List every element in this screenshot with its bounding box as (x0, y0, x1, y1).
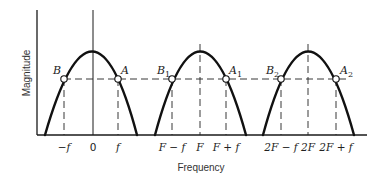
tick-2F: 2F (300, 141, 316, 153)
x-tick-labels: −f 0 f F − f F F + f 2F − f 2F 2F + f (58, 141, 355, 153)
y-axis-label: Magnitude (21, 49, 32, 96)
point-A2 (333, 76, 339, 82)
label-B: B (52, 64, 61, 77)
spectrum-diagram: B A B1 A1 B2 A2 −f 0 f F − f F F + f 2F … (0, 0, 386, 183)
label-B2: B2 (265, 64, 279, 79)
tick-2F-minus-f: 2F − f (263, 141, 299, 153)
tick-F-plus-f: F + f (212, 141, 242, 153)
label-A2: A2 (339, 64, 353, 79)
point-B (61, 76, 67, 82)
label-A: A (120, 64, 129, 77)
label-A1: A1 (228, 64, 242, 79)
tick-2F-plus-f: 2F + f (318, 141, 354, 153)
label-B1: B1 (156, 64, 170, 79)
tick-f: f (115, 141, 122, 153)
tick-F: F (195, 141, 204, 153)
tick-neg-f: −f (58, 141, 73, 153)
tick-zero: 0 (90, 141, 97, 153)
x-axis-label: Frequency (177, 162, 224, 173)
tick-F-minus-f: F − f (158, 141, 188, 153)
